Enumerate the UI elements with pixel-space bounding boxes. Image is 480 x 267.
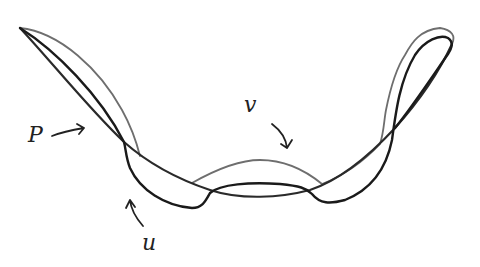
curve-v xyxy=(20,28,454,184)
arrow-P-icon xyxy=(52,124,84,136)
diagram-canvas: P v u xyxy=(0,0,480,267)
label-v: v xyxy=(244,92,257,117)
arrow-u-icon xyxy=(126,200,143,226)
arrow-v-icon xyxy=(272,124,292,148)
curve-u xyxy=(20,28,452,208)
label-u: u xyxy=(142,230,156,255)
diagram-svg: P v u xyxy=(0,0,480,267)
label-P: P xyxy=(27,122,44,147)
curve-P xyxy=(20,28,452,197)
